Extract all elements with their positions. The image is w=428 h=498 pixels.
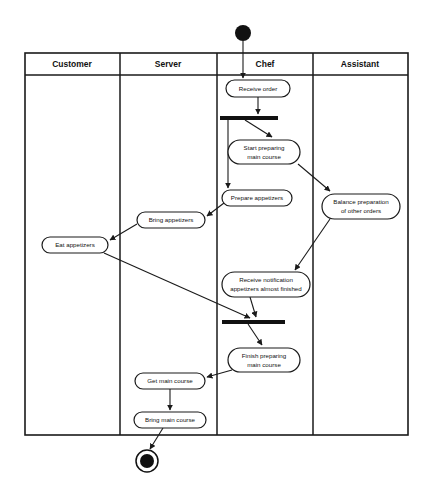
activity-receive-notification-label-line2: appetizers almost finished xyxy=(230,285,302,292)
activity-bring-appetizers-label: Bring appetizers xyxy=(149,216,194,223)
activity-prepare-appetizers-label: Prepare appetizers xyxy=(231,194,283,201)
activity-balance-preparation-label-line2: of other orders xyxy=(341,207,381,214)
activity-get-main-course-label: Get main course xyxy=(147,377,193,384)
activity-finish-preparing-main-course[interactable]: Finish preparing main course xyxy=(228,348,300,372)
swimlane-title-chef: Chef xyxy=(256,59,275,69)
join-bar xyxy=(222,320,285,324)
swimlane-title-assistant: Assistant xyxy=(341,59,379,69)
activity-start-preparing-main-course[interactable]: Start preparing main course xyxy=(228,140,300,164)
activity-start-preparing-main-course-label-line1: Start preparing xyxy=(244,144,285,151)
final-node xyxy=(136,450,158,472)
activity-get-main-course[interactable]: Get main course xyxy=(135,373,205,389)
activity-bring-appetizers[interactable]: Bring appetizers xyxy=(137,212,205,228)
activity-start-preparing-main-course-label-line2: main course xyxy=(247,153,281,160)
activity-diagram-canvas: Customer Server Chef Assistant Receive o… xyxy=(0,0,428,498)
activity-receive-notification[interactable]: Receive notification appetizers almost f… xyxy=(222,272,310,297)
activity-balance-preparation[interactable]: Balance preparation of other orders xyxy=(322,194,400,219)
activity-balance-preparation-label-line1: Balance preparation xyxy=(333,198,389,205)
activity-prepare-appetizers[interactable]: Prepare appetizers xyxy=(222,190,292,206)
activity-receive-order[interactable]: Receive order xyxy=(226,80,290,97)
activity-bring-main-course[interactable]: Bring main course xyxy=(134,412,206,428)
swimlane-title-customer: Customer xyxy=(52,59,92,69)
fork-bar xyxy=(220,116,278,120)
swimlane-title-server: Server xyxy=(155,59,182,69)
activity-bring-main-course-label: Bring main course xyxy=(145,416,195,423)
activity-receive-notification-label-line1: Receive notification xyxy=(239,276,293,283)
activity-receive-order-label: Receive order xyxy=(239,85,278,92)
initial-node xyxy=(235,25,251,41)
final-node-core xyxy=(140,454,154,468)
activity-finish-preparing-main-course-label-line2: main course xyxy=(247,361,281,368)
activity-eat-appetizers[interactable]: Eat appetizers xyxy=(42,237,108,253)
activity-eat-appetizers-label: Eat appetizers xyxy=(55,241,95,248)
activity-finish-preparing-main-course-label-line1: Finish preparing xyxy=(242,352,287,359)
